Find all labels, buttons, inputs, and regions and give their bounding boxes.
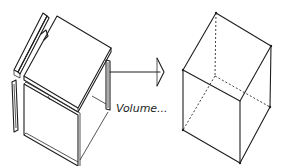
arrow-right-icon [110,58,164,86]
top-edge-plank [14,13,49,78]
planes-to-volume-diagram: Volume... [0,0,281,166]
right-edge-plank [80,60,110,160]
left-edge-plank [12,80,18,132]
front-plane [24,82,80,166]
volume-label: Volume... [116,102,168,115]
volume-box-figure [182,12,272,164]
exploded-planes-figure [12,13,111,166]
top-plane [24,16,111,112]
